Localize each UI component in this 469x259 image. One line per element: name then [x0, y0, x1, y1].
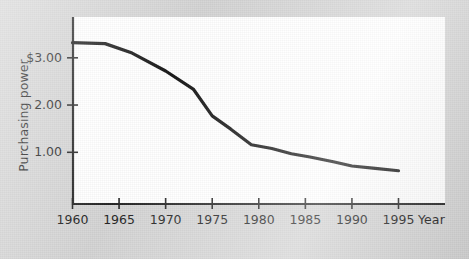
y-axis-tick-label: 1.00 — [2, 144, 62, 159]
y-axis-tick-label: 2.00 — [2, 97, 62, 112]
x-axis-tick-label: 1995 — [375, 212, 423, 227]
x-axis-tick-label: 1980 — [235, 212, 283, 227]
x-axis-tick-label: 1985 — [281, 212, 329, 227]
x-axis-tick-label: 1970 — [142, 212, 190, 227]
y-axis-title: Purchasing power — [16, 51, 31, 181]
y-axis-tick-label: $3.00 — [2, 50, 62, 65]
figure-chart-purchasing-power: Purchasing power Year $3.002.001.00 1960… — [0, 0, 469, 259]
x-axis-tick-label: 1990 — [328, 212, 376, 227]
x-axis-tick-label: 1960 — [49, 212, 97, 227]
x-axis-tick-label: 1965 — [95, 212, 143, 227]
plot-area-background — [72, 17, 445, 205]
x-axis-tick-label: 1975 — [188, 212, 236, 227]
